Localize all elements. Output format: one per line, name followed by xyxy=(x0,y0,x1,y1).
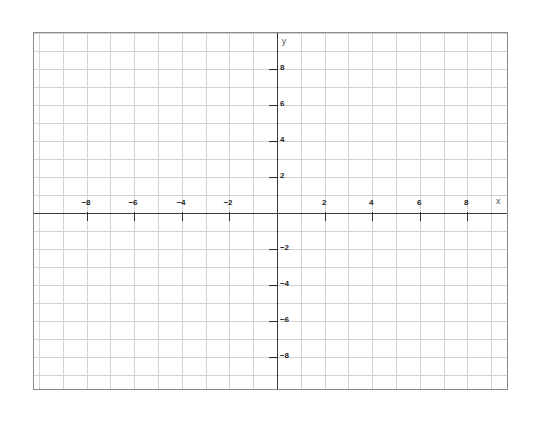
y-axis-tick xyxy=(269,321,278,322)
y-axis-label: y xyxy=(282,37,287,46)
x-axis-tick xyxy=(325,212,326,221)
gridline-vertical xyxy=(110,33,111,389)
gridline-vertical xyxy=(420,33,421,389)
gridline-horizontal xyxy=(34,33,507,34)
x-axis-tick xyxy=(182,212,183,221)
gridline-horizontal xyxy=(34,267,507,268)
gridline-vertical xyxy=(229,33,230,389)
gridline-horizontal xyxy=(34,303,507,304)
gridline-horizontal xyxy=(34,177,507,178)
gridline-horizontal xyxy=(34,123,507,124)
gridline-vertical xyxy=(372,33,373,389)
gridline-horizontal xyxy=(34,69,507,70)
x-axis-tick xyxy=(134,212,135,221)
y-axis-tick xyxy=(269,357,278,358)
y-axis-line xyxy=(277,33,278,389)
x-axis-label: x xyxy=(496,197,501,206)
gridline-vertical xyxy=(158,33,159,389)
x-axis-tick xyxy=(420,212,421,221)
gridline-vertical xyxy=(39,33,40,389)
gridline-vertical xyxy=(396,33,397,389)
y-axis-tick xyxy=(269,69,278,70)
gridline-vertical xyxy=(253,33,254,389)
gridline-vertical xyxy=(491,33,492,389)
horizontal-gridlines xyxy=(34,33,507,389)
gridline-horizontal xyxy=(34,141,507,142)
tick-marks xyxy=(34,33,507,389)
x-axis-tick xyxy=(87,212,88,221)
x-axis-tick xyxy=(229,212,230,221)
gridline-horizontal xyxy=(34,105,507,106)
gridline-vertical xyxy=(63,33,64,389)
gridline-horizontal xyxy=(34,195,507,196)
axes xyxy=(34,33,507,389)
gridline-vertical xyxy=(444,33,445,389)
gridline-horizontal xyxy=(34,159,507,160)
y-axis-tick xyxy=(269,105,278,106)
gridline-vertical xyxy=(87,33,88,389)
gridline-vertical xyxy=(301,33,302,389)
gridline-horizontal xyxy=(34,231,507,232)
gridline-vertical xyxy=(182,33,183,389)
gridline-horizontal xyxy=(34,375,507,376)
gridline-horizontal xyxy=(34,321,507,322)
gridline-vertical xyxy=(467,33,468,389)
gridline-horizontal xyxy=(34,51,507,52)
gridline-horizontal xyxy=(34,285,507,286)
gridline-horizontal xyxy=(34,249,507,250)
y-axis-tick xyxy=(269,285,278,286)
x-axis-line xyxy=(34,213,507,214)
coordinate-plane[interactable] xyxy=(33,32,508,390)
y-axis-tick xyxy=(269,141,278,142)
x-axis-tick xyxy=(372,212,373,221)
gridline-horizontal xyxy=(34,87,507,88)
gridline-vertical xyxy=(325,33,326,389)
gridline-horizontal xyxy=(34,357,507,358)
gridline-vertical xyxy=(348,33,349,389)
gridline-horizontal xyxy=(34,339,507,340)
vertical-gridlines xyxy=(34,33,507,389)
gridline-vertical xyxy=(206,33,207,389)
gridline-vertical xyxy=(134,33,135,389)
y-axis-tick xyxy=(269,177,278,178)
x-axis-tick xyxy=(467,212,468,221)
graph-canvas: −8−6−4−224688642−2−4−6−8 y x xyxy=(0,0,540,426)
y-axis-tick xyxy=(269,249,278,250)
